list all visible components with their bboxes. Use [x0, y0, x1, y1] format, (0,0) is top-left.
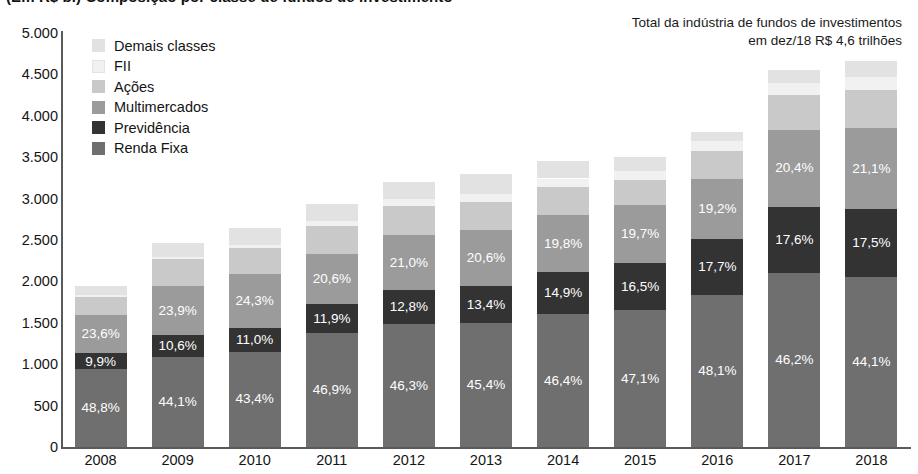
bar-segment-renda-fixa[interactable]: 46,2%	[768, 273, 820, 447]
bar-segment-fii[interactable]	[152, 257, 204, 260]
bar-segment-multimercados[interactable]: 19,2%	[691, 179, 743, 240]
bar-segment-ações[interactable]	[229, 248, 281, 274]
bar-segment-previdência[interactable]: 16,5%	[614, 263, 666, 311]
bar-segment-multimercados[interactable]: 21,1%	[845, 128, 897, 209]
x-axis-tick-label: 2012	[393, 452, 425, 468]
bar-segment-previdência[interactable]: 17,7%	[691, 239, 743, 295]
bar-segment-previdência[interactable]: 10,6%	[152, 335, 204, 357]
bar-segment-value-label: 17,5%	[845, 236, 897, 250]
bar-segment-previdência[interactable]: 11,0%	[229, 328, 281, 352]
bar-segment-fii[interactable]	[614, 171, 666, 180]
bar-segment-value-label: 19,2%	[691, 202, 743, 216]
legend-item-label: Renda Fixa	[114, 140, 188, 156]
bar-segment-ações[interactable]	[691, 151, 743, 179]
bar-segment-ações[interactable]	[306, 226, 358, 255]
bar-segment-multimercados[interactable]: 21,0%	[383, 235, 435, 291]
y-axis-tick-label: 2.500	[4, 232, 58, 248]
bar-segment-multimercados[interactable]: 23,6%	[75, 315, 127, 353]
bar-2015[interactable]: 47,1%16,5%19,7%	[614, 33, 666, 447]
bar-segment-renda-fixa[interactable]: 46,3%	[383, 324, 435, 447]
y-axis-tick-label: 1.000	[4, 356, 58, 372]
bar-2017[interactable]: 46,2%17,6%20,4%	[768, 33, 820, 447]
bar-segment-demais-classes[interactable]	[614, 157, 666, 171]
bar-segment-renda-fixa[interactable]: 44,1%	[845, 277, 897, 447]
bar-2013[interactable]: 45,4%13,4%20,6%	[460, 33, 512, 447]
bar-segment-fii[interactable]	[691, 141, 743, 152]
bar-segment-fii[interactable]	[537, 179, 589, 188]
bar-segment-demais-classes[interactable]	[845, 61, 897, 77]
bar-segment-renda-fixa[interactable]: 46,9%	[306, 333, 358, 447]
bar-segment-multimercados[interactable]: 23,9%	[152, 286, 204, 335]
bar-2010[interactable]: 43,4%11,0%24,3%	[229, 33, 281, 447]
bar-segment-previdência[interactable]: 17,6%	[768, 207, 820, 273]
bar-segment-renda-fixa[interactable]: 47,1%	[614, 310, 666, 447]
bar-segment-ações[interactable]	[152, 259, 204, 286]
bar-2016[interactable]: 48,1%17,7%19,2%	[691, 33, 743, 447]
bar-segment-multimercados[interactable]: 19,8%	[537, 215, 589, 272]
bar-segment-demais-classes[interactable]	[229, 228, 281, 245]
bar-segment-previdência[interactable]: 17,5%	[845, 209, 897, 277]
bar-segment-previdência[interactable]: 9,9%	[75, 353, 127, 369]
bar-2012[interactable]: 46,3%12,8%21,0%	[383, 33, 435, 447]
bar-segment-fii[interactable]	[460, 194, 512, 202]
bar-segment-ações[interactable]	[383, 206, 435, 235]
bar-segment-previdência[interactable]: 11,9%	[306, 304, 358, 333]
bar-segment-multimercados[interactable]: 19,7%	[614, 205, 666, 262]
x-axis-tick-label: 2015	[624, 452, 656, 468]
bar-segment-ações[interactable]	[75, 297, 127, 315]
bar-segment-fii[interactable]	[845, 77, 897, 90]
legend-item[interactable]: Demais classes	[92, 36, 216, 56]
bar-2014[interactable]: 46,4%14,9%19,8%	[537, 33, 589, 447]
x-axis-tick-label: 2010	[239, 452, 271, 468]
bar-segment-fii[interactable]	[306, 221, 358, 226]
bar-2018[interactable]: 44,1%17,5%21,1%	[845, 33, 897, 447]
legend-item[interactable]: Multimercados	[92, 98, 216, 118]
bar-segment-demais-classes[interactable]	[460, 174, 512, 194]
legend-item-label: Ações	[114, 79, 154, 95]
bar-segment-fii[interactable]	[75, 295, 127, 296]
bar-segment-fii[interactable]	[383, 199, 435, 206]
bar-segment-ações[interactable]	[537, 187, 589, 215]
bar-segment-ações[interactable]	[614, 180, 666, 205]
bar-segment-multimercados[interactable]: 20,4%	[768, 130, 820, 207]
bar-segment-multimercados[interactable]: 20,6%	[306, 254, 358, 304]
legend-item-label: FII	[114, 58, 131, 74]
bar-segment-demais-classes[interactable]	[75, 286, 127, 295]
bar-segment-fii[interactable]	[768, 83, 820, 95]
bar-segment-demais-classes[interactable]	[768, 70, 820, 83]
bar-segment-renda-fixa[interactable]: 44,1%	[152, 357, 204, 447]
bar-segment-value-label: 23,6%	[75, 327, 127, 341]
y-axis-tick-label: 5.000	[4, 25, 58, 41]
bar-segment-previdência[interactable]: 12,8%	[383, 290, 435, 324]
x-axis-tick-label: 2009	[161, 452, 193, 468]
bar-segment-previdência[interactable]: 14,9%	[537, 272, 589, 315]
bar-segment-renda-fixa[interactable]: 43,4%	[229, 352, 281, 447]
bar-segment-ações[interactable]	[845, 90, 897, 128]
bar-segment-renda-fixa[interactable]: 48,8%	[75, 369, 127, 447]
bar-segment-value-label: 16,5%	[614, 280, 666, 294]
bar-segment-demais-classes[interactable]	[537, 161, 589, 178]
bar-segment-renda-fixa[interactable]: 48,1%	[691, 295, 743, 447]
bar-segment-previdência[interactable]: 13,4%	[460, 286, 512, 323]
bar-segment-renda-fixa[interactable]: 46,4%	[537, 314, 589, 447]
legend-item[interactable]: FII	[92, 57, 216, 77]
bar-segment-fii[interactable]	[229, 245, 281, 248]
bar-segment-value-label: 20,6%	[460, 251, 512, 265]
bar-segment-demais-classes[interactable]	[383, 182, 435, 199]
bar-2011[interactable]: 46,9%11,9%20,6%	[306, 33, 358, 447]
bar-segment-multimercados[interactable]: 24,3%	[229, 274, 281, 327]
bar-segment-multimercados[interactable]: 20,6%	[460, 230, 512, 286]
legend-item[interactable]: Previdência	[92, 118, 216, 138]
bar-segment-demais-classes[interactable]	[306, 204, 358, 221]
bar-segment-ações[interactable]	[768, 95, 820, 130]
bar-segment-demais-classes[interactable]	[691, 132, 743, 141]
legend-item[interactable]: Renda Fixa	[92, 139, 216, 159]
legend-item[interactable]: Ações	[92, 77, 216, 97]
bar-segment-renda-fixa[interactable]: 45,4%	[460, 323, 512, 447]
bar-segment-ações[interactable]	[460, 202, 512, 230]
y-axis-tick-label: 2.000	[4, 273, 58, 289]
bar-segment-value-label: 23,9%	[152, 304, 204, 318]
bar-segment-demais-classes[interactable]	[152, 243, 204, 257]
bar-segment-value-label: 21,0%	[383, 256, 435, 270]
chart-legend: Demais classesFIIAçõesMultimercadosPrevi…	[92, 36, 216, 158]
